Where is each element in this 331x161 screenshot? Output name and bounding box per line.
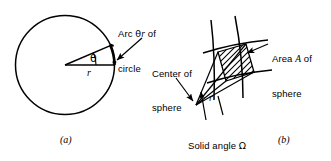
wedge-ray-upper — [65, 45, 111, 65]
radius-label-b: r — [209, 92, 213, 103]
sphere-grid-meridian-1 — [211, 20, 214, 100]
figure-root: Arc θr of circle θ r (a) Center of spher… — [0, 0, 331, 161]
sphere-grid-meridian-2 — [235, 16, 243, 98]
theta-angle-label: θ — [90, 53, 97, 64]
arc-label-line-1: Arc θr of — [118, 28, 156, 40]
area-label-leader-arrow — [247, 44, 268, 53]
center-of-sphere-label: Center of sphere — [152, 46, 192, 136]
center-label-line-1: Center of — [152, 68, 192, 79]
solid-angle-label-leader — [218, 96, 223, 115]
solid-angle-label: Solid angle Ω subtended by area A — [188, 118, 246, 161]
arc-label: Arc θr of circle — [118, 6, 156, 97]
panel-caption-b: (b) — [278, 134, 290, 145]
area-label-prefix: Area — [272, 53, 295, 64]
arc-label-suffix: of — [145, 28, 156, 39]
area-of-sphere-label: Area A of sphere — [272, 31, 312, 122]
omega-symbol-inline: Ω — [239, 140, 246, 151]
solid-angle-prefix: Solid angle — [188, 140, 239, 151]
solid-angle-line-1: Solid angle Ω — [188, 140, 246, 151]
radius-label-a: r — [87, 67, 91, 78]
center-label-line-2: sphere — [152, 102, 192, 113]
area-label-line-2: sphere — [272, 88, 312, 99]
area-label-suffix: of — [301, 53, 312, 64]
arc-label-line-2: circle — [118, 63, 156, 74]
panel-caption-a: (a) — [60, 134, 72, 145]
area-label-line-1: Area A of — [272, 53, 312, 65]
arc-label-prefix: Arc — [118, 28, 135, 39]
